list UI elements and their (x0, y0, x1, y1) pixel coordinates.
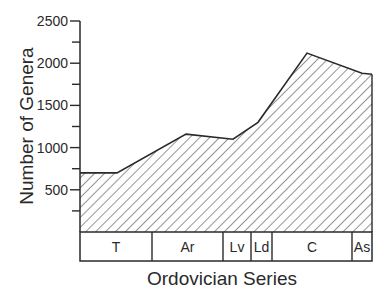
genera-area-chart: 5001000150020002500 Number of Genera TAr… (0, 0, 384, 300)
genera-area (80, 53, 372, 232)
series-band-frame (80, 232, 372, 261)
y-tick-label: 1500 (37, 97, 68, 113)
series-label-as: As (354, 239, 370, 255)
area-fill (80, 53, 372, 232)
y-tick-label: 2500 (37, 13, 68, 29)
series-band: TArLvLdCAs (80, 232, 372, 261)
series-label-t: T (112, 239, 121, 255)
y-tick-label: 2000 (37, 55, 68, 71)
y-axis: 5001000150020002500 (37, 13, 80, 232)
y-tick-label: 500 (45, 182, 69, 198)
x-axis-title: Ordovician Series (147, 268, 297, 289)
series-label-ld: Ld (254, 239, 270, 255)
y-tick-label: 1000 (37, 140, 68, 156)
y-axis-title: Number of Genera (16, 47, 37, 205)
series-label-lv: Lv (230, 239, 245, 255)
series-label-c: C (307, 239, 317, 255)
series-label-ar: Ar (181, 239, 195, 255)
